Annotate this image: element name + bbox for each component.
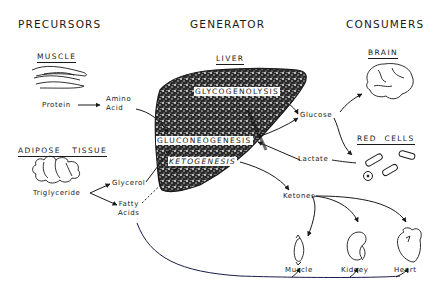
- glycerol-label: Glycerol: [112, 179, 145, 188]
- red-blood-cells-icon: [364, 150, 416, 180]
- protein-label: Protein: [42, 101, 71, 110]
- triglyceride-label: Triglyceride: [33, 189, 81, 198]
- heart-icon: [397, 228, 421, 262]
- brain-title: BRAIN: [368, 48, 398, 59]
- amino-acid-label: Amino Acid: [106, 95, 131, 113]
- brain-icon: [367, 64, 414, 99]
- lactate-label: Lactate: [298, 155, 328, 164]
- ketogenesis-label: KETOGENESIS: [168, 157, 237, 166]
- kidney-icon: [347, 232, 366, 260]
- muscle-icon: [294, 235, 304, 265]
- red-cells-title: RED CELLS: [357, 134, 415, 145]
- generator-header: GENERATOR: [190, 18, 265, 30]
- gluconeogenesis-label: GLUCONEOGENESIS: [156, 136, 253, 145]
- precursors-header: PRECURSORS: [18, 18, 101, 30]
- fatty-acids-label: Fatty Acids: [118, 200, 140, 218]
- kidney-label: Kidney: [341, 266, 368, 275]
- fat-cells-icon: [33, 156, 80, 183]
- liver-title: LIVER: [216, 54, 244, 65]
- muscle-fiber-icon: [32, 66, 86, 88]
- muscle-consumer-label: Muscle: [285, 266, 313, 275]
- muscle-title: MUSCLE: [37, 52, 76, 63]
- glucose-label: Glucose: [300, 111, 332, 120]
- ketones-label: Ketones: [283, 192, 315, 201]
- consumers-header: CONSUMERS: [346, 18, 424, 30]
- heart-label: Heart: [394, 266, 416, 275]
- adipose-title: ADIPOSE TISSUE: [18, 146, 107, 157]
- glycogenolysis-label: GLYCOGENOLYSIS: [194, 87, 280, 96]
